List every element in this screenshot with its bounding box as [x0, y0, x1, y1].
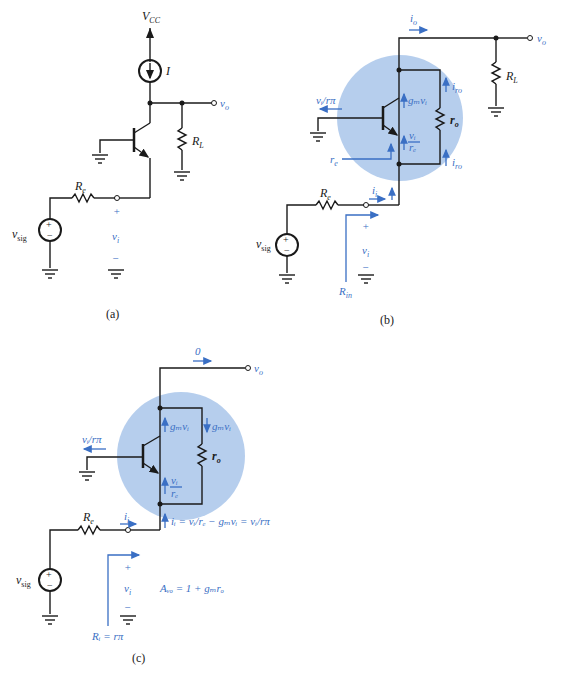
- load-resistor-icon: [492, 62, 500, 84]
- output-label: vo: [254, 362, 263, 377]
- caption-b: (b): [380, 313, 394, 327]
- ii-label: ii: [372, 184, 377, 199]
- minus-sign: −: [362, 261, 369, 273]
- output-terminal: [212, 101, 217, 106]
- io-zero-label: 0: [195, 345, 201, 357]
- svg-text:−: −: [47, 580, 53, 591]
- svg-text:+: +: [46, 569, 52, 580]
- load-label: RL: [191, 134, 204, 150]
- source-resistor-label: Re: [74, 179, 86, 195]
- ground-icon: [488, 108, 504, 116]
- gm-down-label: gₘvᵢ: [212, 420, 231, 432]
- ground-icon: [120, 616, 136, 624]
- io-label: io: [410, 12, 417, 27]
- caption-c: (c): [132, 651, 145, 665]
- ground-icon: [174, 172, 190, 180]
- emitter-current-den: rₑ: [409, 141, 416, 153]
- source-resistor-icon: [72, 194, 94, 202]
- input-terminal: [115, 196, 120, 201]
- output-label: vo: [537, 32, 546, 47]
- rin-label: Rᵢ = rπ: [91, 630, 124, 642]
- base-current-label: vᵢ/rπ: [82, 433, 102, 445]
- ground-icon: [279, 275, 295, 283]
- ii-label: ii: [124, 510, 129, 525]
- plus-sign: +: [113, 205, 120, 217]
- source-resistor-label: Re: [82, 510, 94, 526]
- base-current-label: vᵢ/rπ: [316, 94, 336, 106]
- load-resistor-icon: [178, 128, 186, 150]
- iro-bottom-label: iro: [452, 156, 462, 171]
- svg-text:+: +: [283, 234, 289, 245]
- transistor-model-highlight: [117, 392, 245, 520]
- panel-b: io vo RL ro iro iro vᵢ/rπ gₘvᵢ: [256, 12, 546, 327]
- source-label: vsig: [256, 237, 271, 253]
- input-voltage-label: vi: [362, 244, 369, 259]
- ground-icon: [79, 472, 95, 480]
- svg-text:−: −: [47, 230, 53, 241]
- minus-sign: −: [124, 601, 131, 613]
- ground-icon: [108, 270, 124, 278]
- panel-a: VCC I vo RL Re: [12, 9, 229, 321]
- rin-label: Rin: [338, 285, 352, 300]
- ground-icon: [42, 616, 58, 624]
- svg-text:−: −: [284, 245, 290, 256]
- minus-sign: −: [112, 252, 119, 264]
- emitter-current-num: vᵢ: [171, 474, 178, 486]
- input-voltage-label: vi: [124, 582, 131, 597]
- source-label: vsig: [16, 573, 31, 589]
- input-terminal: [364, 203, 369, 208]
- vcc-label: VCC: [142, 9, 161, 25]
- plus-sign: +: [124, 561, 131, 573]
- gm-up-label: gₘvᵢ: [170, 420, 189, 432]
- output-terminal: [528, 36, 533, 41]
- vcc-arrow-icon: [146, 28, 154, 38]
- panel-c: 0 vo ro gₘvᵢ gₘvᵢ vᵢ/rπ vᵢ rₑ iᵢ = vᵢ/rₑ…: [16, 345, 270, 665]
- ii-equation: iᵢ = vᵢ/rₑ − gₘvᵢ = vᵢ/rπ: [171, 515, 270, 527]
- input-voltage-label: vi: [112, 230, 119, 245]
- source-label: vsig: [12, 227, 27, 243]
- gain-equation: Aᵥₒ = 1 + gₘrₒ: [159, 582, 224, 594]
- emitter-current-den: rₑ: [171, 487, 178, 499]
- output-terminal: [246, 366, 251, 371]
- bjt-icon: [134, 103, 150, 198]
- current-source-label: I: [165, 64, 171, 78]
- source-resistor-icon: [316, 201, 338, 209]
- output-label: vo: [220, 97, 229, 112]
- svg-text:+: +: [46, 219, 52, 230]
- plus-sign: +: [362, 220, 369, 232]
- circuit-figure: VCC I vo RL Re: [0, 0, 563, 680]
- ground-icon: [42, 270, 58, 278]
- source-resistor-label: Re: [319, 186, 331, 202]
- re-label: re: [330, 153, 338, 168]
- source-resistor-icon: [78, 526, 100, 534]
- caption-a: (a): [106, 307, 119, 321]
- load-label: RL: [505, 69, 518, 85]
- emitter-current-num: vᵢ: [409, 129, 416, 141]
- ground-icon: [358, 275, 374, 283]
- input-terminal: [126, 528, 131, 533]
- gm-current-label: gₘvᵢ: [408, 94, 427, 106]
- ground-icon: [92, 155, 108, 163]
- ground-icon: [310, 133, 326, 141]
